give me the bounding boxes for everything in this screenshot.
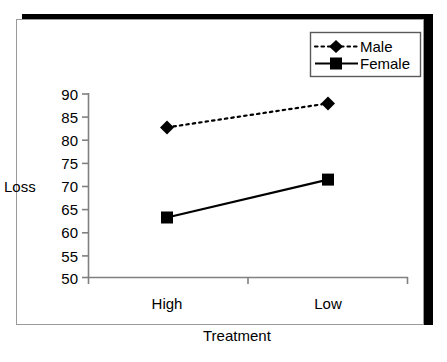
y-tick-label-65: 65 [44,202,78,217]
legend-female-marker [330,58,342,70]
y-tick-label-85: 85 [44,110,78,125]
marker-male-high [160,120,174,134]
x-tick-label-high: High [127,296,207,311]
x-tick-label-low: Low [288,296,368,311]
x-axis-title: Treatment [203,328,271,343]
y-tick-label-55: 55 [44,249,78,264]
series-male-line [167,103,328,127]
legend-label-female: Female [360,56,410,71]
y-tick-label-75: 75 [44,156,78,171]
y-tick-label-50: 50 [44,271,78,286]
marker-female-high [161,212,173,224]
marker-female-low [322,174,334,186]
y-tick-label-80: 80 [44,133,78,148]
y-tick-label-90: 90 [44,87,78,102]
marker-male-low [321,96,335,110]
y-axis-title: Loss [4,179,36,194]
y-tick-label-70: 70 [44,179,78,194]
y-tick-label-60: 60 [44,225,78,240]
chart-figure: 90 85 80 75 70 65 60 55 50 Loss Treatmen… [0,0,447,362]
legend-label-male: Male [360,39,393,54]
series-female-line [167,180,328,218]
y-tick-marks [82,94,88,278]
